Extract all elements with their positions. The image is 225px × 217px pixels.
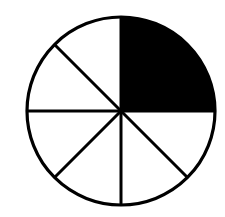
fraction-circle-svg — [0, 0, 225, 217]
fraction-circle-diagram — [0, 0, 225, 217]
